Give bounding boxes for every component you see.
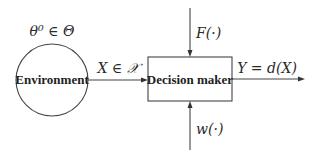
decision-diagram: Environment θ⁰ ∈ Θ X ∈ 𝒳 Decision maker … [0, 0, 315, 159]
arrowhead-right-icon [298, 77, 305, 82]
environment-parameter-label: θ⁰ ∈ Θ [30, 23, 75, 39]
observation-label: X ∈ 𝒳 [96, 60, 142, 76]
observation-edge [88, 78, 148, 83]
decision-maker-node: Decision maker [147, 57, 234, 101]
arrowhead-down-icon [188, 50, 193, 57]
top-input-edge [188, 8, 193, 57]
arrowhead-up-icon [188, 101, 193, 108]
top-input-label: F(·) [195, 25, 221, 41]
bottom-input-label: w(·) [196, 121, 223, 137]
decision-maker-label: Decision maker [147, 72, 234, 87]
output-label: Y = d(X) [237, 60, 297, 76]
environment-node: Environment [15, 44, 89, 116]
bottom-input-edge [188, 101, 193, 150]
environment-label: Environment [15, 72, 89, 87]
output-edge [232, 77, 305, 82]
